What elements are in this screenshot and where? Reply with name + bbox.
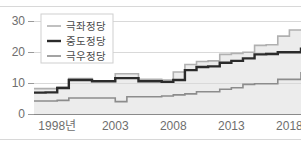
- plot-area: 0102030 1998년2003200820132018 극좌정당중도정당극우…: [0, 8, 301, 138]
- chart-figure: 0102030 1998년2003200820132018 극좌정당중도정당극우…: [0, 0, 301, 147]
- y-tick-label-10: 10: [12, 76, 26, 90]
- x-tick-label-2008: 2008: [160, 119, 187, 133]
- y-tick-labels: 0102030: [12, 14, 34, 121]
- x-tick-label-2018: 2018: [276, 119, 301, 133]
- chart-legend: 극좌정당중도정당극우정당: [41, 14, 113, 63]
- y-tick-label-20: 20: [12, 45, 26, 59]
- x-tick-label-2013: 2013: [218, 119, 245, 133]
- top-divider: [0, 6, 301, 7]
- legend-label-2: 극우정당: [66, 50, 106, 62]
- x-tick-label-1998: 1998년: [38, 119, 76, 133]
- legend-label-0: 극좌정당: [66, 20, 106, 32]
- legend-label-1: 중도정당: [66, 35, 106, 47]
- y-tick-label-0: 0: [18, 107, 25, 121]
- step-line-chart: 0102030 1998년2003200820132018 극좌정당중도정당극우…: [0, 8, 301, 138]
- x-tick-label-2003: 2003: [102, 119, 129, 133]
- y-tick-label-30: 30: [12, 14, 26, 28]
- x-tick-labels: 1998년2003200820132018: [38, 119, 301, 133]
- bottom-divider: [0, 139, 301, 140]
